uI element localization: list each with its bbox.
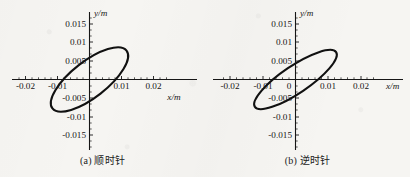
x-tick-label: -0.01 — [253, 81, 273, 91]
panel-caption-a: (a) 顺时针 — [0, 152, 205, 167]
plot-b-svg: -0.02 -0.01 0 0.01 0.02 0.015 0.01 0.005… — [205, 0, 410, 152]
x-tick-label: 0.02 — [353, 81, 369, 91]
y-axis-title-a: y/m — [93, 8, 108, 18]
x-tick-label: -0.02 — [220, 81, 240, 91]
y-tick-label: -0.01 — [273, 112, 293, 122]
x-tick-label-origin: 0 — [287, 81, 292, 91]
x-tick-labels-a: -0.02 -0.01 0.01 0.02 — [16, 81, 162, 91]
figure-two-panel: -0.02 -0.01 0.01 0.02 0.015 0.01 0.005 -… — [0, 0, 410, 177]
x-tick-label: -0.01 — [48, 81, 68, 91]
x-tick-label: 0.01 — [113, 81, 129, 91]
x-axis-title-a: x/m — [166, 92, 181, 102]
x-tick-labels-b: -0.02 -0.01 0 0.01 0.02 — [220, 81, 369, 91]
y-tick-label: 0.005 — [271, 56, 292, 66]
x-tick-label: -0.02 — [16, 81, 36, 91]
y-tick-label: 0.01 — [70, 37, 86, 47]
y-tick-label: -0.015 — [268, 130, 292, 140]
plot-panel-a: -0.02 -0.01 0.01 0.02 0.015 0.01 0.005 -… — [0, 0, 205, 177]
y-tick-label: 0.005 — [65, 56, 86, 66]
y-tick-label: -0.005 — [268, 93, 292, 103]
y-tick-label: 0.01 — [276, 37, 292, 47]
x-tick-label: 0.01 — [320, 81, 336, 91]
x-axis-title-b: x/m — [385, 81, 400, 91]
y-tick-label: -0.015 — [62, 130, 86, 140]
x-tick-label: 0.02 — [145, 81, 161, 91]
y-tick-label: 0.015 — [271, 19, 292, 29]
plot-panel-b: -0.02 -0.01 0 0.01 0.02 0.015 0.01 0.005… — [205, 0, 410, 177]
axes-b — [213, 12, 403, 150]
axes-a — [12, 12, 197, 150]
y-tick-label: -0.01 — [67, 112, 87, 122]
y-tick-label: 0.015 — [65, 19, 86, 29]
y-tick-label: -0.005 — [62, 93, 86, 103]
plot-a-svg: -0.02 -0.01 0.01 0.02 0.015 0.01 0.005 -… — [0, 0, 205, 152]
y-axis-title-b: y/m — [299, 8, 314, 18]
panel-caption-b: (b) 逆时针 — [205, 152, 410, 167]
